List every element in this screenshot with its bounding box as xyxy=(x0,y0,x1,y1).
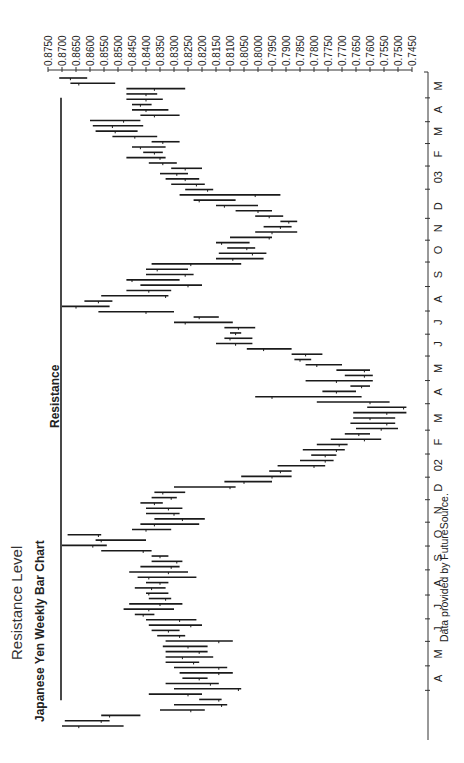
price-bar xyxy=(152,561,183,563)
price-bar xyxy=(247,349,292,351)
price-bar xyxy=(129,604,182,606)
price-bar xyxy=(65,721,110,723)
time-tick-label: A xyxy=(432,674,444,682)
price-bar xyxy=(152,630,180,632)
price-bar xyxy=(146,275,194,277)
price-bar xyxy=(160,710,205,712)
price-bar xyxy=(166,652,208,654)
time-tick-label: J xyxy=(432,319,444,325)
price-bar xyxy=(101,715,140,717)
price-bar xyxy=(345,375,373,377)
price-tick-label: 0.8450 xyxy=(127,35,138,66)
price-bar xyxy=(185,190,213,192)
price-bar xyxy=(98,312,174,314)
price-bar xyxy=(101,296,168,298)
price-bar xyxy=(166,179,200,181)
weekly-bar-chart: Resistance Level Japanese Yen Weekly Bar… xyxy=(0,0,464,763)
price-bar xyxy=(135,588,166,590)
price-bar xyxy=(345,434,370,436)
price-bar xyxy=(149,694,202,696)
time-tick-label: J xyxy=(432,604,444,610)
price-tick-label: 0.7850 xyxy=(295,35,306,66)
price-bar xyxy=(317,402,390,404)
price-bar xyxy=(194,200,236,202)
price-tick-label: 0.7950 xyxy=(267,35,278,66)
price-tick-label: 0.7550 xyxy=(379,35,390,66)
price-tick-label: 0.8500 xyxy=(113,35,124,66)
price-tick-label: 0.7500 xyxy=(393,35,404,66)
price-bar xyxy=(149,625,202,627)
price-bar xyxy=(166,657,214,659)
data-credit: Data provided by FutureSource. xyxy=(438,493,450,642)
price-bar xyxy=(227,248,255,250)
price-tick-label: 0.8400 xyxy=(141,35,152,66)
price-bar xyxy=(152,498,177,500)
time-tick-label: N xyxy=(432,224,444,232)
price-bar xyxy=(96,540,146,542)
price-bar xyxy=(124,609,174,611)
price-bar xyxy=(278,466,326,468)
price-bar xyxy=(174,689,241,691)
price-bar xyxy=(101,551,151,553)
resistance-label: Resistance xyxy=(48,364,62,428)
price-bar xyxy=(112,136,157,138)
price-bar xyxy=(68,535,102,537)
price-bar xyxy=(166,641,233,643)
price-bar xyxy=(140,115,179,117)
time-tick-label: A xyxy=(432,387,444,395)
price-bar xyxy=(152,264,242,266)
price-bar xyxy=(230,237,272,239)
price-bar xyxy=(255,216,283,218)
price-bar xyxy=(224,338,252,340)
price-bar xyxy=(146,620,196,622)
price-bar xyxy=(140,524,199,526)
price-tick-label: 0.8600 xyxy=(85,35,96,66)
time-tick-label: 02 xyxy=(432,459,444,471)
price-bar xyxy=(350,423,395,425)
price-bar xyxy=(331,439,381,441)
time-tick-label: D xyxy=(432,202,444,210)
price-bar xyxy=(132,105,152,107)
price-bar xyxy=(146,514,180,516)
chart-title: Japanese Yen Weekly Bar Chart xyxy=(33,540,47,722)
time-tick-label: M xyxy=(432,364,444,373)
price-bar xyxy=(300,460,334,462)
price-bar xyxy=(62,306,110,308)
price-bar xyxy=(264,227,292,229)
price-bar xyxy=(224,328,255,330)
price-bar xyxy=(140,503,162,505)
price-bar xyxy=(90,120,140,122)
price-tick-label: 0.7600 xyxy=(365,35,376,66)
price-bar xyxy=(306,381,373,383)
price-bars xyxy=(59,78,406,728)
price-bar xyxy=(311,455,336,457)
price-bar xyxy=(174,322,233,324)
price-bar xyxy=(353,418,395,420)
price-bar xyxy=(157,636,185,638)
price-bar xyxy=(70,83,115,85)
price-bar xyxy=(163,646,208,648)
price-bar xyxy=(149,163,177,165)
price-bar xyxy=(216,344,252,346)
price-bar xyxy=(180,673,233,675)
price-bar xyxy=(224,482,272,484)
time-tick-label: 03 xyxy=(432,171,444,183)
price-bar xyxy=(62,545,107,547)
price-tick-label: 0.8750 xyxy=(43,35,54,66)
price-bar xyxy=(62,726,124,728)
price-bar xyxy=(135,614,155,616)
price-bar xyxy=(174,487,236,489)
section-title: Resistance Level xyxy=(8,546,25,660)
price-bar xyxy=(59,78,87,80)
price-bar xyxy=(241,476,291,478)
time-tick-label: F xyxy=(432,150,444,157)
price-bar xyxy=(154,492,185,494)
time-tick-label: F xyxy=(432,438,444,445)
price-tick-label: 0.7650 xyxy=(351,35,362,66)
price-tick-label: 0.7700 xyxy=(337,35,348,66)
price-bar xyxy=(174,668,227,670)
price-bar xyxy=(152,142,180,144)
price-bar xyxy=(138,577,197,579)
price-bar xyxy=(303,450,345,452)
price-bar xyxy=(126,99,162,101)
